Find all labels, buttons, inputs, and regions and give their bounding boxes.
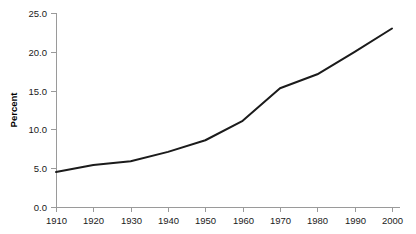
- x-tick-label-group: 1910192019301940195019601970198019902000: [46, 215, 403, 226]
- y-tick-label: 0.0: [34, 202, 47, 213]
- x-tick-label: 1910: [46, 215, 67, 226]
- chart-canvas: 0.05.010.015.020.025.0 Percent 191019201…: [0, 0, 416, 234]
- x-tick-label: 1940: [158, 215, 179, 226]
- y-axis-title: Percent: [8, 92, 19, 128]
- x-tick-label: 2000: [382, 215, 403, 226]
- x-tick-label: 1980: [307, 215, 328, 226]
- series-group: [56, 29, 392, 173]
- line-chart: 0.05.010.015.020.025.0 Percent 191019201…: [0, 0, 416, 234]
- y-tick-label-group: 0.05.010.015.020.025.0: [29, 8, 48, 213]
- y-tick-label: 20.0: [29, 47, 48, 58]
- y-axis: 0.05.010.015.020.025.0 Percent: [8, 8, 57, 213]
- y-tick-label: 5.0: [34, 163, 47, 174]
- y-tick-label: 10.0: [29, 124, 48, 135]
- x-tick-label: 1990: [345, 215, 366, 226]
- x-tick-label: 1930: [121, 215, 142, 226]
- x-axis: 1910192019301940195019601970198019902000: [46, 207, 403, 226]
- y-tick-label: 25.0: [29, 8, 48, 19]
- x-tick-label: 1960: [233, 215, 254, 226]
- series-line-percent: [56, 29, 392, 173]
- x-tick-label: 1950: [195, 215, 216, 226]
- y-tick-group: [51, 14, 56, 208]
- x-tick-label: 1970: [270, 215, 291, 226]
- x-tick-label: 1920: [83, 215, 104, 226]
- y-tick-label: 15.0: [29, 86, 48, 97]
